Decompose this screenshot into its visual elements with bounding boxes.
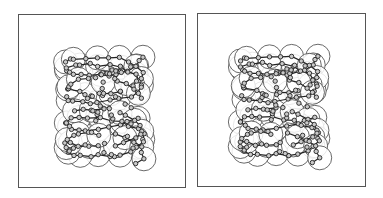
stereo-panel-left xyxy=(18,14,186,188)
stereo-panel-right xyxy=(197,13,366,187)
molecule-render-right xyxy=(198,14,367,188)
molecule-render-left xyxy=(19,15,187,189)
